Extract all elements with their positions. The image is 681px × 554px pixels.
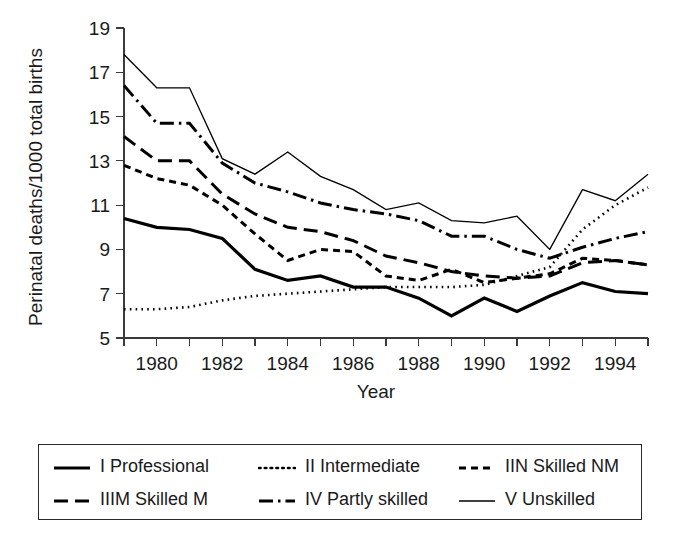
y-axis-title: Perinatal deaths/1000 total births: [25, 48, 46, 326]
x-tick-label-1982: 1982: [201, 353, 243, 374]
legend-swatch-v-unskilled: [458, 492, 496, 506]
series-line-ii-intermediate: [124, 187, 648, 309]
legend-entry-iv-partly-skilled: IV Partly skilled: [258, 490, 458, 508]
x-axis-title: Year: [357, 381, 396, 402]
legend-label-iin-skilled-nm: IIN Skilled NM: [505, 457, 619, 475]
chart-legend: I ProfessionalII IntermediateIIN Skilled…: [38, 444, 642, 520]
x-tick-label-1990: 1990: [463, 353, 505, 374]
series-line-iiim-skilled-m: [124, 137, 648, 279]
legend-label-ii-intermediate: II Intermediate: [305, 457, 420, 475]
y-tick-label-7: 7: [99, 284, 110, 305]
legend-swatch-iin-skilled-nm: [458, 459, 496, 473]
legend-entry-iin-skilled-nm: IIN Skilled NM: [458, 457, 657, 475]
y-tick-label-11: 11: [90, 195, 110, 216]
legend-entry-ii-intermediate: II Intermediate: [258, 457, 458, 475]
x-tick-label-1980: 1980: [136, 353, 178, 374]
legend-entry-i-professional: I Professional: [53, 457, 258, 475]
x-tick-label-1988: 1988: [398, 353, 440, 374]
legend-label-i-professional: I Professional: [100, 457, 209, 475]
y-tick-label-9: 9: [99, 239, 110, 260]
x-tick-label-1986: 1986: [332, 353, 374, 374]
y-tick-label-19: 19: [89, 18, 110, 39]
legend-swatch-iiim-skilled-m: [53, 492, 91, 506]
legend-label-v-unskilled: V Unskilled: [505, 490, 595, 508]
legend-swatch-i-professional: [53, 459, 91, 473]
plot-area: 5791113151719198019821984198619881990199…: [0, 0, 681, 430]
legend-label-iiim-skilled-m: IIIM Skilled M: [100, 490, 208, 508]
legend-entry-iiim-skilled-m: IIIM Skilled M: [53, 490, 258, 508]
series-line-v-unskilled: [124, 55, 648, 250]
y-tick-label-5: 5: [99, 328, 110, 349]
x-tick-label-1994: 1994: [594, 353, 637, 374]
legend-swatch-ii-intermediate: [258, 459, 296, 473]
x-tick-label-1992: 1992: [529, 353, 571, 374]
figure-container: 5791113151719198019821984198619881990199…: [0, 0, 681, 554]
legend-entry-v-unskilled: V Unskilled: [458, 490, 657, 508]
x-tick-label-1984: 1984: [267, 353, 310, 374]
line-chart: 5791113151719198019821984198619881990199…: [0, 0, 681, 430]
y-tick-label-15: 15: [89, 107, 110, 128]
series-line-iin-skilled-nm: [124, 165, 648, 282]
legend-swatch-iv-partly-skilled: [258, 492, 296, 506]
y-tick-label-17: 17: [89, 62, 110, 83]
y-tick-label-13: 13: [89, 151, 110, 172]
legend-label-iv-partly-skilled: IV Partly skilled: [305, 490, 428, 508]
